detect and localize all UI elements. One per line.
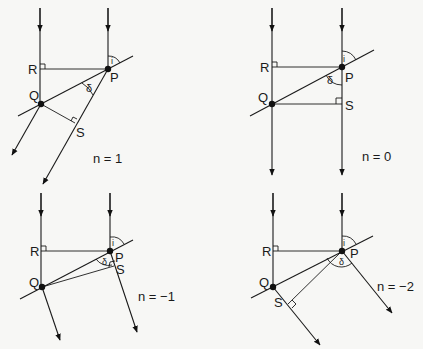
label-S: S xyxy=(274,295,283,310)
label-P: P xyxy=(110,70,119,85)
label-Q: Q xyxy=(258,90,268,105)
label-i: i xyxy=(343,238,345,248)
segment-QS xyxy=(41,104,75,123)
segment-PS xyxy=(288,251,342,304)
reflected-ray-left xyxy=(42,287,60,340)
label-Q: Q xyxy=(29,88,39,103)
label-P: P xyxy=(345,70,354,85)
point-P xyxy=(339,248,345,254)
angle-i-arc xyxy=(108,56,120,63)
panel-n-minus1: R P Q S i δ n = −1 xyxy=(20,193,175,340)
label-delta: δ xyxy=(102,257,107,267)
point-Q xyxy=(269,101,275,107)
n-label: n = −2 xyxy=(377,279,414,294)
label-S: S xyxy=(345,98,354,113)
right-angle-icon xyxy=(40,64,45,69)
right-angle-icon xyxy=(336,98,342,104)
label-delta: δ xyxy=(86,82,92,94)
label-i: i xyxy=(111,56,113,66)
label-delta: δ xyxy=(339,257,344,267)
right-angle-icon xyxy=(272,62,277,67)
point-Q xyxy=(270,284,276,290)
panel-n0: R P Q S i δ n = 0 xyxy=(250,8,391,175)
label-R: R xyxy=(260,60,269,75)
label-R: R xyxy=(262,244,271,259)
label-Q: Q xyxy=(259,275,269,290)
n-label: n = −1 xyxy=(138,289,175,304)
n-label: n = 1 xyxy=(93,151,122,166)
label-P: P xyxy=(350,246,359,261)
point-P xyxy=(107,248,113,254)
label-S: S xyxy=(116,262,125,277)
panel-n-minus2: R P Q S i δ n = −2 xyxy=(251,193,414,345)
label-R: R xyxy=(30,244,39,259)
n-label: n = 0 xyxy=(362,149,391,164)
panel-n1: R P Q S i δ n = 1 xyxy=(12,8,133,184)
label-i: i xyxy=(112,238,114,248)
label-delta: δ xyxy=(327,74,333,86)
right-angle-icon xyxy=(71,117,77,121)
label-S: S xyxy=(76,125,85,140)
right-angle-icon xyxy=(273,246,278,251)
right-angle-icon xyxy=(41,246,46,251)
label-Q: Q xyxy=(29,275,39,290)
ray-diagram-figure: R P Q S i δ n = 1 R P Q S i δ n = 0 xyxy=(0,0,423,349)
right-angle-icon xyxy=(292,300,296,308)
label-R: R xyxy=(28,62,37,77)
point-Q xyxy=(39,284,45,290)
label-i: i xyxy=(343,54,345,64)
